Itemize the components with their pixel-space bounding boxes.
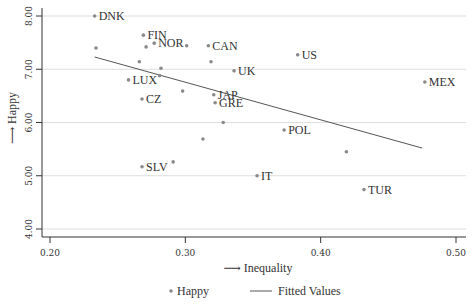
x-tick-label: 0.20 bbox=[40, 248, 60, 258]
y-tick-label: 5.00 bbox=[24, 165, 34, 185]
fitted-line-group bbox=[95, 57, 423, 148]
point bbox=[159, 66, 163, 70]
legend-label-fitted: Fitted Values bbox=[278, 284, 341, 298]
point bbox=[221, 121, 225, 125]
point bbox=[185, 44, 189, 48]
point-label-slv: SLV bbox=[146, 160, 168, 174]
point bbox=[138, 60, 142, 64]
point-fin bbox=[142, 33, 146, 37]
point-pol bbox=[282, 128, 286, 132]
point-label-mex: MEX bbox=[429, 75, 456, 89]
point-label-can: CAN bbox=[212, 39, 238, 53]
fitted-line bbox=[95, 57, 423, 148]
point-tur bbox=[362, 188, 366, 192]
point bbox=[181, 89, 185, 93]
x-tick-label: 0.40 bbox=[311, 248, 331, 258]
point-label-pol: POL bbox=[288, 123, 311, 137]
point-us bbox=[296, 53, 300, 57]
point bbox=[144, 45, 148, 49]
point-label-it: IT bbox=[261, 169, 273, 183]
point-dnk bbox=[93, 14, 97, 18]
point bbox=[94, 46, 98, 50]
point-cz bbox=[140, 97, 144, 101]
point-jap bbox=[212, 93, 216, 97]
y-axis-title: ⟶ Happy bbox=[5, 92, 19, 144]
point-label-dnk: DNK bbox=[99, 9, 125, 23]
point bbox=[209, 60, 213, 64]
legend-label-happy: Happy bbox=[177, 284, 209, 298]
x-tick-label: 0.30 bbox=[175, 248, 195, 258]
x-ticks: 0.200.300.400.50 bbox=[40, 237, 466, 258]
point-can bbox=[207, 44, 211, 48]
point bbox=[201, 137, 205, 141]
point-label-gre: GRE bbox=[219, 96, 243, 110]
y-tick-label: 6.00 bbox=[24, 112, 34, 132]
point-label-lux: LUX bbox=[132, 73, 157, 87]
y-tick-label: 4.00 bbox=[24, 219, 34, 239]
gridlines bbox=[42, 16, 466, 229]
x-axis-title: ⟶ Inequality bbox=[224, 261, 293, 275]
point-uk bbox=[232, 69, 236, 73]
point bbox=[345, 150, 349, 154]
scatter-chart: 4.005.006.007.008.00 0.200.300.400.50 DN… bbox=[0, 0, 472, 306]
y-tick-label: 7.00 bbox=[24, 59, 34, 79]
point-it bbox=[255, 174, 259, 178]
point-label-cz: CZ bbox=[146, 92, 161, 106]
x-tick-label: 0.50 bbox=[446, 248, 466, 258]
point-lux bbox=[127, 78, 131, 82]
point-mex bbox=[423, 80, 427, 84]
y-tick-label: 8.00 bbox=[24, 6, 34, 26]
point bbox=[158, 74, 162, 78]
point-slv bbox=[140, 165, 144, 169]
point-gre bbox=[213, 101, 217, 105]
point-label-us: US bbox=[302, 48, 317, 62]
point-labels: DNKFINNORCANUKLUXUSMEXJAPCZGREPOLSLVITTU… bbox=[99, 9, 456, 197]
point-label-uk: UK bbox=[238, 64, 256, 78]
legend-dot-happy bbox=[169, 289, 173, 293]
y-ticks: 4.005.006.007.008.00 bbox=[24, 6, 42, 239]
point-label-nor: NOR bbox=[158, 36, 183, 50]
point-label-tur: TUR bbox=[368, 183, 392, 197]
legend: Happy Fitted Values bbox=[169, 284, 341, 298]
point bbox=[171, 160, 175, 164]
